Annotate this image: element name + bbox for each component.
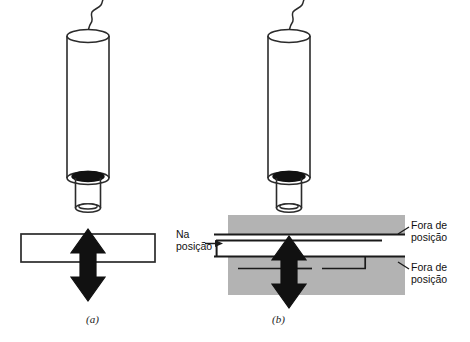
label-in-position-line2: posição	[176, 240, 212, 252]
band-bottom-out-of-position	[228, 256, 405, 295]
label-in-position-line1: Na	[176, 228, 212, 240]
label-in-position: Na posição	[176, 228, 212, 252]
label-out-of-position-bottom-line2: posição	[411, 273, 447, 285]
caption-panel-b: (b)	[272, 313, 285, 325]
label-out-of-position-top-line2: posição	[411, 231, 447, 243]
label-out-of-position-top: Fora de posição	[411, 219, 447, 243]
panel-a-cylinder	[67, 30, 109, 213]
label-out-of-position-bottom-line1: Fora de	[411, 261, 447, 273]
panel-b-cylinder	[268, 30, 310, 213]
caption-panel-a: (a)	[86, 313, 99, 325]
figure-canvas	[0, 0, 470, 342]
panel-b	[205, 0, 409, 308]
panel-a	[21, 0, 155, 301]
label-out-of-position-top-line1: Fora de	[411, 219, 447, 231]
label-out-of-position-bottom: Fora de posição	[411, 261, 447, 285]
band-top-out-of-position	[228, 215, 405, 234]
